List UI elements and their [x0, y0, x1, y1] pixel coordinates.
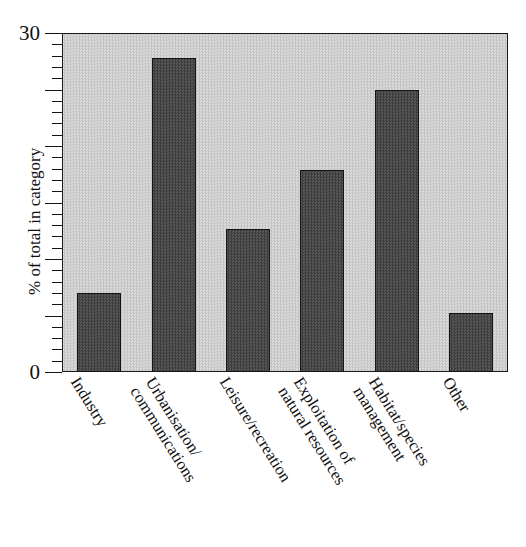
bar: [375, 90, 419, 373]
y-axis-major-tick: [45, 316, 62, 317]
y-axis-minor-tick: [52, 304, 62, 305]
x-axis-category-label: Other: [439, 374, 473, 415]
y-axis-minor-tick: [52, 327, 62, 328]
y-axis-minor-tick: [52, 191, 62, 192]
y-axis-major-tick: [45, 90, 62, 91]
y-axis-minor-tick: [52, 180, 62, 181]
y-axis-minor-tick: [52, 44, 62, 45]
cropped-caption-artifact: [60, 0, 480, 9]
y-axis-minor-tick: [52, 78, 62, 79]
y-axis-minor-tick: [52, 169, 62, 170]
y-axis-minor-tick: [52, 361, 62, 362]
x-axis-category-label: Urbanisation/communications: [127, 374, 214, 485]
y-axis-title-text: % of total in category: [26, 148, 43, 295]
y-axis-minor-tick: [52, 248, 62, 249]
y-axis-tick-label: 30: [19, 23, 40, 44]
y-axis-title: % of total in category: [4, 105, 32, 295]
y-axis-major-tick: [45, 372, 62, 373]
y-axis-minor-tick: [52, 270, 62, 271]
x-axis-category-label: Industry: [68, 374, 112, 430]
y-axis-minor-tick: [52, 282, 62, 283]
y-axis-minor-tick: [52, 349, 62, 350]
x-axis-labels: IndustryUrbanisation/communicationsLeisu…: [0, 374, 526, 547]
x-axis-category-label-line: Other: [439, 374, 473, 415]
bars-layer: [62, 33, 508, 372]
y-axis-minor-tick: [52, 101, 62, 102]
y-axis-minor-tick: [52, 225, 62, 226]
bar: [77, 293, 121, 372]
bar: [449, 313, 493, 372]
x-axis-category-label: Habitat/speciesmanagement: [350, 374, 433, 478]
y-axis-minor-tick: [52, 123, 62, 124]
y-axis-minor-tick: [52, 236, 62, 237]
y-axis-minor-tick: [52, 112, 62, 113]
y-axis-major-tick: [45, 259, 62, 260]
x-axis-category-label-line: Industry: [68, 374, 112, 430]
y-axis-major-tick: [45, 33, 62, 34]
y-axis-minor-tick: [52, 157, 62, 158]
y-axis-minor-tick: [52, 56, 62, 57]
y-axis-minor-tick: [52, 214, 62, 215]
bar: [152, 58, 196, 372]
y-axis-minor-tick: [52, 293, 62, 294]
y-axis-minor-tick: [52, 67, 62, 68]
bar: [226, 229, 270, 373]
y-axis-minor-tick: [52, 338, 62, 339]
y-axis-major-tick: [45, 146, 62, 147]
y-axis-minor-tick: [52, 135, 62, 136]
bar: [300, 170, 344, 372]
y-axis-major-tick: [45, 203, 62, 204]
